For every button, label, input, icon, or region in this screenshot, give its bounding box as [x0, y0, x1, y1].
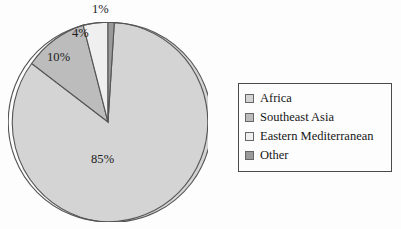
legend-label-other: Other: [260, 149, 288, 162]
pie-value-label-eastern-mediterranean: 4%: [72, 26, 89, 41]
legend-label-eastern-mediterranean: Eastern Mediterranean: [260, 130, 373, 143]
pie-chart-figure: 1% 4% 10% 85% Africa Southeast Asia East…: [0, 0, 401, 229]
legend-item-africa[interactable]: Africa: [245, 89, 385, 108]
pie-value-label-africa: 85%: [91, 152, 114, 167]
pie-value-label-southeast-asia: 10%: [47, 50, 70, 65]
legend-swatch-icon-southeast-asia: [245, 113, 254, 122]
legend-item-southeast-asia[interactable]: Southeast Asia: [245, 108, 385, 127]
chart-legend: Africa Southeast Asia Eastern Mediterran…: [238, 83, 392, 172]
legend-label-africa: Africa: [260, 92, 292, 105]
legend-swatch-icon-africa: [245, 94, 254, 103]
pie-value-label-other: 1%: [92, 2, 109, 17]
pie-chart-svg: [8, 22, 208, 222]
legend-label-southeast-asia: Southeast Asia: [260, 111, 334, 124]
legend-item-other[interactable]: Other: [245, 146, 385, 165]
pie-chart-plot-area: [8, 22, 208, 222]
legend-item-eastern-mediterranean[interactable]: Eastern Mediterranean: [245, 127, 385, 146]
legend-swatch-icon-other: [245, 151, 254, 160]
legend-swatch-icon-eastern-mediterranean: [245, 132, 254, 141]
